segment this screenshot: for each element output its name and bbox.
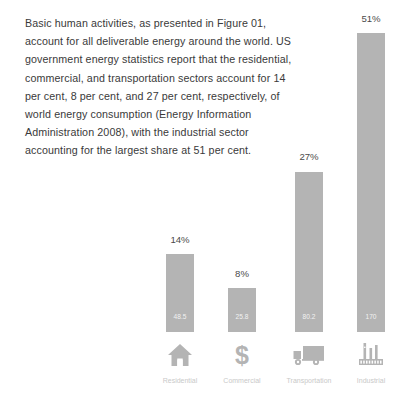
dollar-icon: $ [227, 340, 257, 370]
bar-value-label: 48.5 [174, 313, 187, 320]
bar-group-residential: 14% 48.5 Residential [166, 0, 194, 399]
bar-group-transportation: 27% 80.2 Transportation [295, 0, 323, 399]
house-icon [165, 340, 195, 370]
category-label-industrial: Industrial [357, 377, 385, 384]
truck-icon [292, 340, 326, 370]
bar-percent-label: 8% [235, 268, 249, 279]
bar-percent-label: 51% [361, 13, 380, 24]
bar-value-label: 25.8 [236, 313, 249, 320]
svg-text:$: $ [235, 342, 249, 368]
bar-value-label: 80.2 [303, 313, 316, 320]
bar-commercial[interactable] [228, 288, 256, 332]
bar-group-industrial: 51% 170 [357, 0, 385, 399]
bar-group-commercial: 8% 25.8 $ Commercial [228, 0, 256, 399]
category-label-transportation: Transportation [287, 377, 332, 384]
energy-bar-chart: 14% 48.5 Residential 8% 25.8 $ Commercia… [0, 0, 405, 399]
factory-icon [356, 340, 386, 370]
bar-value-label: 170 [365, 313, 376, 320]
bar-percent-label: 14% [170, 234, 189, 245]
bar-residential[interactable] [166, 254, 194, 332]
category-label-residential: Residential [163, 377, 198, 384]
page-root: Basic human activities, as presented in … [0, 0, 405, 399]
category-label-commercial: Commercial [223, 377, 260, 384]
bar-industrial[interactable] [357, 33, 385, 332]
bar-percent-label: 27% [299, 151, 318, 162]
bar-transportation[interactable] [295, 172, 323, 332]
